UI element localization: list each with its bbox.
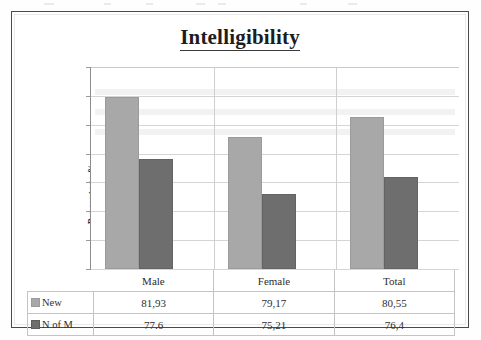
plot-area xyxy=(90,67,459,270)
bar-female-new xyxy=(228,137,262,269)
legend-swatch-icon xyxy=(31,298,40,307)
scan-artifact xyxy=(196,3,205,5)
table-value-cell: 79,17 xyxy=(214,292,334,314)
table-row: New81,9379,1780,55 xyxy=(28,292,455,314)
scan-artifact xyxy=(300,3,307,5)
plot-wrapper: Percentage % 8482807876747270 xyxy=(79,67,459,270)
legend-cell-n-of-m: N of M xyxy=(28,314,94,336)
scan-artifact xyxy=(104,3,111,5)
chart-figure-frame: Intelligibility Percentage % 84828078767… xyxy=(11,11,469,328)
bar-total-new xyxy=(350,117,384,269)
table-value-cell: 77.6 xyxy=(94,314,214,336)
scan-artifact xyxy=(348,3,357,5)
scan-artifact xyxy=(146,3,153,5)
bar-group-female xyxy=(214,67,337,269)
legend-cell-new: New xyxy=(28,292,94,314)
bar-male-n-of-m xyxy=(139,159,173,269)
scanned-page: Intelligibility Percentage % 84828078767… xyxy=(0,0,481,340)
chart-title: Intelligibility xyxy=(12,25,468,50)
table-category-header-female: Female xyxy=(214,270,334,292)
bar-group-total xyxy=(336,67,459,269)
scan-artifact xyxy=(218,3,226,5)
bar-male-new xyxy=(105,97,139,269)
table-corner-cell xyxy=(28,270,94,292)
table-category-header-total: Total xyxy=(334,270,454,292)
data-table-body: MaleFemaleTotalNew81,9379,1780,55N of M7… xyxy=(28,270,455,336)
data-table: MaleFemaleTotalNew81,9379,1780,55N of M7… xyxy=(27,270,455,336)
table-category-header-male: Male xyxy=(94,270,214,292)
legend-label: N of M xyxy=(42,319,73,330)
table-value-cell: 75,21 xyxy=(214,314,334,336)
table-value-cell: 76,4 xyxy=(334,314,454,336)
bar-total-n-of-m xyxy=(384,177,418,269)
bar-group-male xyxy=(91,67,214,269)
table-value-cell: 81,93 xyxy=(94,292,214,314)
legend-swatch-icon xyxy=(31,320,40,329)
scan-artifact xyxy=(44,3,54,5)
bar-female-n-of-m xyxy=(262,194,296,269)
legend-label: New xyxy=(42,297,62,308)
table-header-row: MaleFemaleTotal xyxy=(28,270,455,292)
chart-title-text: Intelligibility xyxy=(180,25,300,51)
table-row: N of M77.675,2176,4 xyxy=(28,314,455,336)
table-value-cell: 80,55 xyxy=(334,292,454,314)
